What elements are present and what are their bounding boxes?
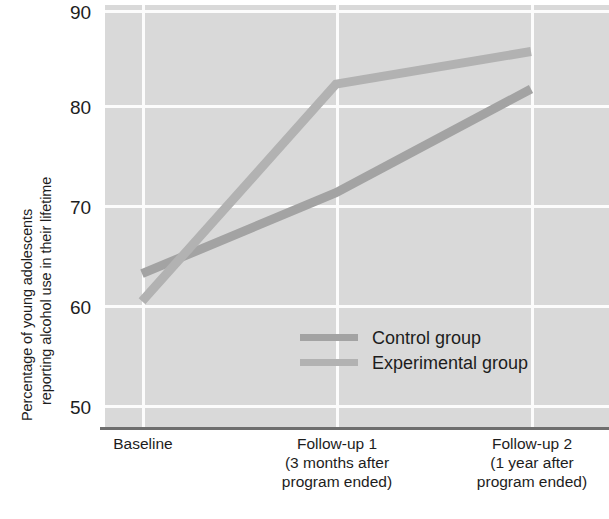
y-tick-50: 50 xyxy=(70,398,104,417)
y-tick-70: 70 xyxy=(70,198,104,217)
legend-label-experimental: Experimental group xyxy=(372,354,528,372)
y-axis-title-line-1: Percentage of young adolescents xyxy=(20,209,35,421)
legend-label-control: Control group xyxy=(372,329,481,347)
x-label-followup-2-line-1: Follow-up 2 xyxy=(492,435,572,452)
x-label-followup-1-line-2: (3 months after xyxy=(242,453,432,472)
line-control-group xyxy=(142,89,531,274)
legend-swatch-experimental xyxy=(300,359,358,366)
x-axis-category-labels: Baseline Follow-up 1 (3 months after pro… xyxy=(105,434,609,519)
chart-figure: Percentage of young adolescents reportin… xyxy=(0,0,609,519)
x-label-followup-2-line-2: (1 year after xyxy=(437,453,609,472)
x-label-followup-2: Follow-up 2 (1 year after program ended) xyxy=(437,434,609,491)
x-label-followup-1-line-1: Follow-up 1 xyxy=(297,435,377,452)
x-label-followup-1-line-3: program ended) xyxy=(242,472,432,491)
y-axis-title-line-2: reporting alcohol use in their lifetime xyxy=(39,177,54,405)
legend-swatch-control xyxy=(300,334,358,341)
y-axis-tick-labels: 90 80 70 60 50 xyxy=(68,0,104,430)
legend-item-experimental: Experimental group xyxy=(300,350,560,375)
y-axis-title: Percentage of young adolescents reportin… xyxy=(0,0,60,430)
x-label-followup-2-line-3: program ended) xyxy=(437,472,609,491)
x-label-followup-1: Follow-up 1 (3 months after program ende… xyxy=(242,434,432,491)
chart-legend: Control group Experimental group xyxy=(300,325,560,375)
x-axis-line xyxy=(100,427,609,430)
legend-item-control: Control group xyxy=(300,325,560,350)
y-tick-80: 80 xyxy=(70,98,104,117)
x-label-baseline: Baseline xyxy=(53,434,233,453)
y-tick-60: 60 xyxy=(70,298,104,317)
line-experimental-group xyxy=(142,52,531,302)
x-label-baseline-line-1: Baseline xyxy=(113,435,172,452)
y-tick-90: 90 xyxy=(70,3,104,22)
